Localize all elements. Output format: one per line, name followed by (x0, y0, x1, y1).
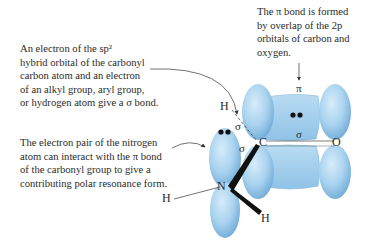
sigma-co-label: σ (296, 128, 302, 140)
amide-orbital-diagram: π σ σ σ C O N H H H (0, 0, 374, 243)
oxygen-atom-label: O (332, 135, 341, 149)
hydrogen-left-label: H (162, 191, 171, 205)
nitrogen-atom-label: N (217, 179, 226, 193)
hydrogen-top-label: H (220, 99, 229, 113)
carbon-atom-label: C (259, 135, 267, 149)
pi-label: π (296, 82, 302, 94)
hydrogen-bottom-label: H (261, 211, 270, 225)
sigma-ch-label: σ (235, 120, 241, 132)
sigma-cn-label: σ (239, 142, 245, 154)
nitrogen-annotation-arrow (172, 143, 205, 148)
